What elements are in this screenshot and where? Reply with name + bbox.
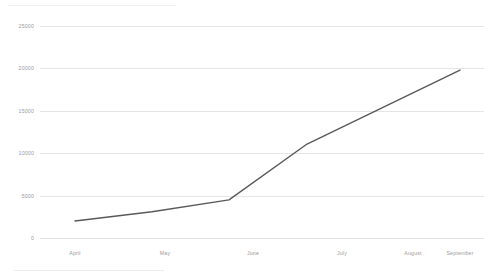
y-tick-label-5000: 5000 — [22, 193, 34, 199]
x-tick-label-september: September — [446, 250, 473, 257]
line-chart: 25000 20000 15000 10000 5000 0 April May… — [0, 0, 484, 275]
footer-divider — [14, 270, 164, 271]
y-axis: 25000 20000 15000 10000 5000 0 — [0, 20, 34, 240]
x-tick-label-july: July — [337, 250, 347, 257]
y-tick-label-10000: 10000 — [19, 150, 34, 156]
series-line-group — [40, 20, 484, 240]
y-tick-label-20000: 20000 — [19, 65, 34, 71]
y-tick-label-25000: 25000 — [19, 23, 34, 29]
plot-area — [40, 20, 484, 240]
x-tick-label-august: August — [404, 250, 421, 257]
x-axis: April May June July August September — [40, 250, 484, 262]
y-tick-label-0: 0 — [31, 235, 34, 241]
top-divider — [8, 5, 176, 6]
x-tick-label-june: June — [247, 250, 259, 257]
series-line-1 — [75, 70, 460, 221]
y-tick-label-15000: 15000 — [19, 108, 34, 114]
x-tick-label-may: May — [160, 250, 170, 257]
x-tick-label-april: April — [69, 250, 80, 257]
